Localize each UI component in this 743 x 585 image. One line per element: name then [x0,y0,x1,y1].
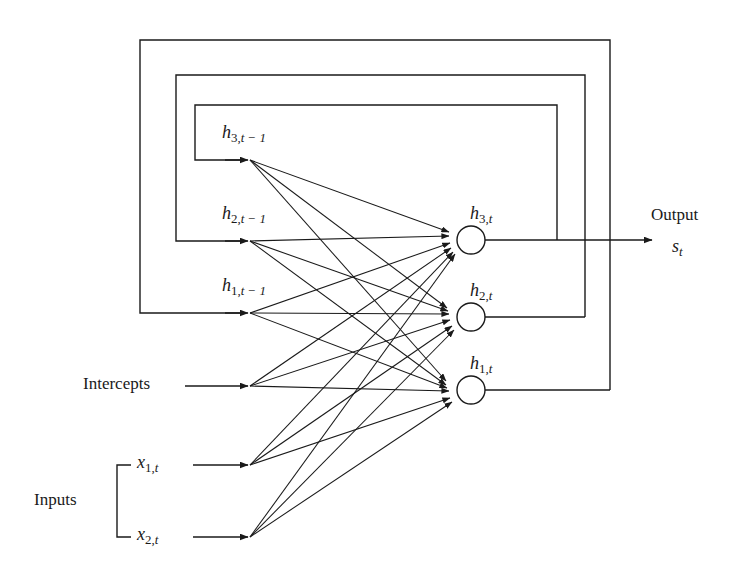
hidden-node-h2 [457,303,485,331]
figure-canvas: h3,t − 1 h2,t − 1 h1,t − 1 h3,t h2,t h1,… [0,0,743,585]
label-h2-prev-index: 2, [231,211,241,226]
label-intercepts: Intercepts [83,374,150,394]
feedback-loop-outer [140,40,610,390]
synapse-h1prev-h2 [250,313,449,314]
label-output-symbol: st [672,236,683,260]
label-h3-prev-index: 3, [231,130,241,145]
label-h3-current-base: h [470,203,479,223]
label-output-symbol-base: s [672,236,679,256]
label-h1-current-base: h [470,353,479,373]
label-h2-prev-time: t − 1 [241,211,266,226]
synapse-h2prev-h3 [250,236,449,241]
synapse-intercepts-h3 [250,248,451,386]
synapse-h3prev-h3 [250,160,449,232]
label-h2-current-time: t [489,288,493,303]
label-x2-index: 2, [145,532,155,547]
label-x1-base: x [137,452,145,472]
label-h1-current-time: t [489,361,493,376]
label-h1-current-index: 1, [479,361,489,376]
label-h3-prev-base: h [222,122,231,142]
synapse-x1-h1 [250,398,450,465]
label-x2: x2,t [137,524,158,548]
synapse-h3prev-h1 [250,160,446,381]
label-h3-prev: h3,t − 1 [222,122,266,146]
label-h3-current: h3,t [470,203,492,227]
label-x2-time: t [155,532,159,547]
synapse-x1-h3 [250,252,453,465]
inputs-bracket [117,465,131,537]
synapse-intercepts-h1 [250,386,449,391]
hidden-node-h1 [457,376,485,404]
node-output-group [485,317,610,390]
label-output-symbol-sub: t [679,244,683,259]
label-inputs: Inputs [34,490,77,510]
label-h2-prev: h2,t − 1 [222,203,266,227]
label-h1-current: h1,t [470,353,492,377]
label-x1: x1,t [137,452,158,476]
synapse-x2-h3 [250,254,455,537]
label-x1-time: t [155,460,159,475]
synapse-group [250,160,455,537]
label-h1-prev-index: 1, [231,283,241,298]
label-h2-prev-base: h [222,203,231,223]
label-h1-prev: h1,t − 1 [222,275,266,299]
label-h1-prev-base: h [222,275,231,295]
hidden-unit-group [457,226,485,404]
synapse-intercepts-h2 [250,320,450,386]
label-h2-current-base: h [470,280,479,300]
label-h1-prev-time: t − 1 [241,283,266,298]
label-x1-index: 1, [145,460,155,475]
rnn-diagram [0,0,743,585]
synapse-x2-h1 [250,402,452,537]
label-h3-current-time: t [489,211,493,226]
synapse-h2prev-h2 [250,241,448,311]
label-x2-base: x [137,524,145,544]
label-h2-current-index: 2, [479,288,489,303]
hidden-node-h3 [457,226,485,254]
synapse-h3prev-h2 [250,160,447,308]
label-output-title: Output [651,205,698,225]
synapse-x1-h2 [250,326,452,465]
external-input-arrow-group [185,386,248,537]
label-h3-prev-time: t − 1 [241,130,266,145]
feedback-loop-group [140,40,610,390]
label-h3-current-index: 3, [479,211,489,226]
label-h2-current: h2,t [470,280,492,304]
